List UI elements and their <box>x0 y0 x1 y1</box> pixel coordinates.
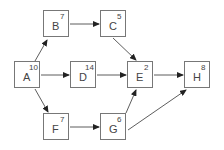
node-label: C <box>109 20 117 32</box>
node-label: F <box>52 123 59 135</box>
node-label: A <box>23 71 30 83</box>
node-g: G 6 <box>100 113 126 140</box>
node-duration: 2 <box>144 63 148 72</box>
node-a: A 10 <box>14 61 40 88</box>
node-c: C 5 <box>100 10 126 37</box>
edge-g-h <box>128 90 186 130</box>
node-f: F 7 <box>43 113 69 140</box>
node-duration: 6 <box>117 115 121 124</box>
node-label: G <box>109 123 118 135</box>
node-e: E 2 <box>127 61 153 88</box>
edge-a-b <box>35 40 47 61</box>
node-duration: 7 <box>60 115 64 124</box>
edge-g-e <box>126 90 136 113</box>
node-duration: 14 <box>85 63 94 72</box>
node-duration: 5 <box>117 12 121 21</box>
edge-c-e <box>113 38 136 60</box>
node-duration: 10 <box>29 63 38 72</box>
node-duration: 8 <box>201 63 205 72</box>
node-label: B <box>52 20 59 32</box>
edge-a-f <box>35 89 48 112</box>
node-b: B 7 <box>43 10 69 37</box>
node-label: D <box>79 71 87 83</box>
node-label: E <box>136 71 143 83</box>
node-duration: 7 <box>60 12 64 21</box>
node-h: H 8 <box>184 61 210 88</box>
node-d: D 14 <box>70 61 96 88</box>
node-label: H <box>193 71 201 83</box>
